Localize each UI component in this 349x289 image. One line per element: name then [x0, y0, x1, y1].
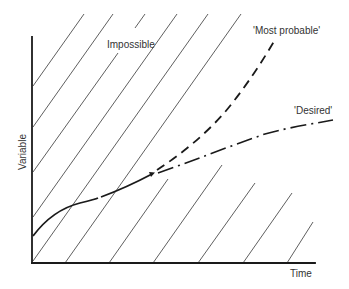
hatch-line	[33, 14, 208, 261]
hatch-line	[33, 14, 84, 86]
hatch-line	[65, 14, 241, 263]
hatch-line	[153, 165, 222, 263]
hatch-line	[243, 193, 292, 263]
hatch-line	[287, 222, 313, 263]
impossible-region-label: Impossible	[107, 39, 155, 50]
desired-label: 'Desired'	[294, 105, 332, 116]
axes	[32, 37, 315, 263]
x-axis-label: Time	[290, 268, 312, 279]
most-probable-curve	[157, 38, 276, 170]
desired-curve	[158, 120, 333, 173]
most-probable-label: 'Most probable'	[253, 25, 320, 36]
hatch-line	[109, 179, 168, 263]
history-curve	[101, 174, 152, 197]
hatch-lines	[33, 14, 313, 263]
y-axis-label: Variable	[17, 134, 28, 170]
hatch-line	[33, 14, 177, 217]
hatch-line	[33, 53, 118, 172]
hatch-line	[135, 14, 145, 28]
hatch-line	[198, 183, 255, 263]
variable-time-diagram: Impossible 'Most probable' 'Desired' Tim…	[0, 0, 349, 289]
hatch-line	[33, 14, 113, 127]
